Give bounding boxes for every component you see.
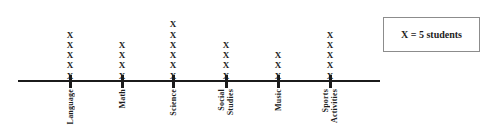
marker-x-icon: X (170, 50, 177, 60)
legend-label: X = 5 students (401, 29, 462, 40)
category-axis-label-line: Sports (321, 89, 330, 112)
marker-x-icon: X (275, 60, 282, 70)
axis-tick-mark (121, 75, 124, 88)
marker-x-icon: X (170, 30, 177, 40)
category-axis-label-line: Science (169, 89, 178, 116)
marker-stack: XXX (258, 4, 298, 81)
marker-x-icon: X (223, 50, 230, 60)
category-column: XXXXXLanguage (50, 0, 90, 81)
category-axis-label-line: Social (217, 89, 226, 111)
marker-x-icon: X (170, 19, 177, 29)
category-axis-label: Language (66, 89, 75, 124)
category-column: XXXXXXScience (153, 0, 193, 81)
axis-tick-mark (329, 75, 332, 88)
marker-stack: XXXX (206, 4, 246, 81)
axis-tick-mark (277, 75, 280, 88)
marker-x-icon: X (327, 30, 334, 40)
marker-x-icon: X (327, 60, 334, 70)
category-axis-label-line: Activities (330, 89, 339, 123)
category-column: XXXMusic (258, 0, 298, 81)
marker-x-icon: X (67, 40, 74, 50)
marker-stack: XXXXXX (153, 4, 193, 81)
category-axis-label-line: Language (66, 89, 75, 124)
marker-stack: XXXXX (50, 4, 90, 81)
axis-tick-mark (172, 75, 175, 88)
marker-x-icon: X (170, 60, 177, 70)
marker-x-icon: X (275, 50, 282, 60)
marker-x-icon: X (67, 60, 74, 70)
marker-x-icon: X (327, 40, 334, 50)
category-axis-label: Music (274, 89, 283, 111)
marker-x-icon: X (119, 40, 126, 50)
category-axis-label-line: Math (118, 89, 127, 108)
category-axis-label-line: Music (274, 89, 283, 111)
category-column: XXXXSocialStudies (206, 0, 246, 81)
pictograph-chart: XXXXXLanguageXXXXMathXXXXXXScienceXXXXSo… (0, 0, 493, 139)
marker-x-icon: X (170, 40, 177, 50)
marker-x-icon: X (119, 60, 126, 70)
category-axis-label: SocialStudies (217, 89, 235, 115)
marker-x-icon: X (119, 50, 126, 60)
category-axis-label: Math (118, 89, 127, 108)
marker-stack: XXXX (102, 4, 142, 81)
marker-x-icon: X (327, 50, 334, 60)
marker-x-icon: X (67, 30, 74, 40)
category-column: XXXXXSportsActivities (310, 0, 350, 81)
legend-box: X = 5 students (383, 17, 480, 52)
category-axis-label: Science (169, 89, 178, 116)
axis-tick-mark (69, 75, 72, 88)
marker-x-icon: X (223, 40, 230, 50)
category-column: XXXXMath (102, 0, 142, 81)
marker-x-icon: X (223, 60, 230, 70)
marker-stack: XXXXX (310, 4, 350, 81)
category-axis-label: SportsActivities (321, 89, 339, 123)
marker-x-icon: X (67, 50, 74, 60)
category-axis-label-line: Studies (226, 89, 235, 115)
axis-tick-mark (225, 75, 228, 88)
